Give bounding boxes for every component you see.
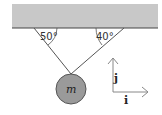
mass-label: m: [66, 83, 76, 96]
j-axis-label: j: [113, 72, 118, 85]
right-angle-label: 40°: [96, 31, 114, 42]
ceiling: [12, 4, 158, 28]
left-angle-label: 50°: [40, 31, 58, 42]
diagram-canvas: 50° 40° m j i: [0, 0, 162, 115]
i-axis-label: i: [124, 94, 128, 107]
